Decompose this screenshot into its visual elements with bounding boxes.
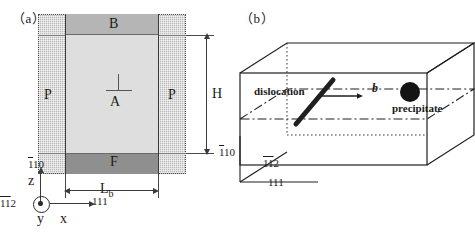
region-label-p-left: P xyxy=(44,88,52,102)
x-axis-label: x xyxy=(60,212,67,226)
coordinate-triad-a: 110 z 112 y x 111 xyxy=(8,158,118,228)
y-axis-miller-label: 112 xyxy=(0,198,16,209)
width-tick-right xyxy=(158,174,159,198)
z-axis-miller-label: 110 xyxy=(28,159,44,170)
x-axis-miller-label: 111 xyxy=(92,196,108,207)
region-label-a: A xyxy=(110,95,120,109)
burgers-vector-label: b xyxy=(372,82,378,94)
panel-b-vertical-miller-label: 110 xyxy=(219,147,235,158)
height-dimension-arrow xyxy=(206,38,207,150)
panel-b-depth-miller-label: 112 xyxy=(263,158,279,169)
box-3d-svg xyxy=(232,0,475,239)
panel-a: （a） B A F P P H Lb 110 z xyxy=(0,0,232,239)
region-label-b: B xyxy=(109,17,118,31)
panel-b-horizontal-miller-label: 111 xyxy=(268,177,284,188)
figure-root: （a） B A F P P H Lb 110 z xyxy=(0,0,475,239)
precipitate-annotation: precipitate xyxy=(392,103,443,114)
x-axis-arrow xyxy=(50,203,90,204)
dislocation-annotation: dislocation xyxy=(254,86,305,97)
region-label-p-right: P xyxy=(168,88,176,102)
height-tick-top xyxy=(186,35,214,36)
height-tick-bottom xyxy=(186,153,214,154)
y-axis-label: y xyxy=(37,212,44,226)
dislocation-tack-icon xyxy=(106,74,132,94)
z-axis-label: z xyxy=(28,174,34,188)
precipitate-marker xyxy=(400,82,420,102)
height-dimension-label: H xyxy=(212,87,222,101)
panel-b: （b） xyxy=(232,0,475,239)
burgers-vector-arrow xyxy=(320,93,363,99)
